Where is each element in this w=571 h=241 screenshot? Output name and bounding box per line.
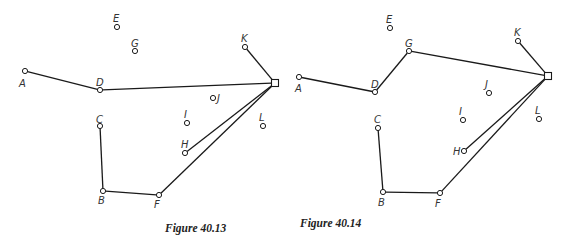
node-G [406,48,411,53]
node-label-H: H [181,139,189,150]
figure-2: ADEGKJILCHBFFigure 40.14 [294,14,552,230]
node-E [387,25,392,30]
node-D [372,89,377,94]
node-label-G: G [131,38,139,49]
node-label-L: L [535,105,541,116]
depot-square [272,80,279,87]
figure-caption: Figure 40.13 [164,222,227,235]
node-B [100,188,105,193]
route-diagrams: ADEGKJILCHBFFigure 40.13ADEGKJILCHBFFigu… [0,0,571,241]
edge-D-G [377,53,408,90]
edge-C-B [100,129,103,189]
edge-H-depot [466,78,545,149]
edge-B-F [106,191,157,195]
node-label-H: H [453,146,461,157]
edge-A-D [302,78,373,92]
node-F [437,190,442,195]
edge-K-depot [247,49,273,80]
node-I [460,117,465,122]
node-label-J: J [483,79,488,90]
node-D [97,87,102,92]
node-E [114,24,119,29]
node-A [22,68,27,73]
edge-C-B [378,131,383,190]
node-label-I: I [459,106,462,117]
edge-A-D [28,72,98,90]
node-label-K: K [514,27,522,38]
node-label-C: C [96,114,103,125]
depot-square [545,73,552,80]
node-L [260,123,265,128]
figure-caption: Figure 40.14 [299,217,362,230]
node-J [210,95,215,100]
node-label-C: C [374,114,381,125]
node-H [461,148,466,153]
figure-1: ADEGKJILCHBFFigure 40.13 [18,13,279,235]
node-K [515,38,520,43]
node-L [536,116,541,121]
node-label-L: L [259,112,265,123]
edge-G-depot [412,51,545,75]
node-G [132,48,137,53]
edge-D-depot [103,83,272,90]
node-label-E: E [386,14,393,25]
node-H [182,150,187,155]
node-I [184,120,189,125]
node-label-B: B [378,197,385,208]
node-label-I: I [184,109,187,120]
node-label-E: E [113,13,120,24]
node-J [486,90,491,95]
node-B [380,189,385,194]
node-C [375,125,380,130]
node-label-A: A [18,78,26,89]
node-A [296,74,301,79]
node-label-B: B [98,195,105,206]
node-F [156,192,161,197]
edge-B-F [386,192,438,193]
edge-F-depot [442,79,546,192]
edge-K-depot [520,43,546,73]
node-label-D: D [96,77,104,88]
node-label-A: A [294,83,302,94]
node-label-F: F [154,199,160,210]
node-K [242,44,247,49]
node-label-F: F [435,198,441,209]
node-label-G: G [405,38,413,49]
node-label-D: D [371,79,379,90]
node-label-K: K [241,33,249,44]
